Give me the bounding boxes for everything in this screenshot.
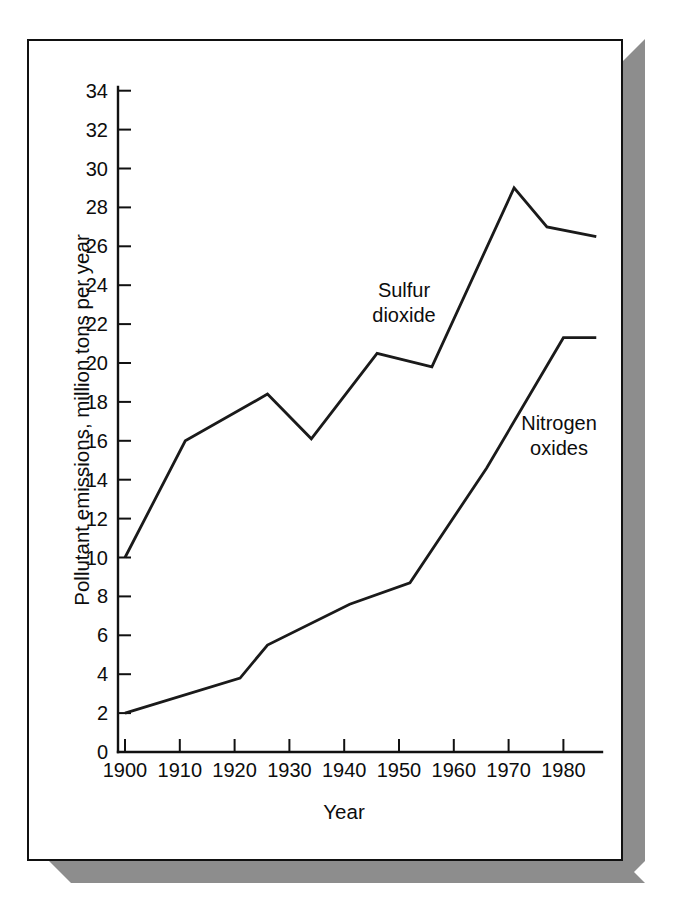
x-tick-label: 1920 [212, 759, 257, 782]
figure-container: 0 2 4 6 8 10 12 14 16 18 20 22 24 26 28 … [0, 0, 688, 906]
y-tick-label: 34 [66, 79, 108, 102]
y-tick-label: 30 [66, 157, 108, 180]
y-tick-label: 2 [66, 702, 108, 725]
y-tick-label: 32 [66, 118, 108, 141]
series-line-nitrogen-oxides [125, 338, 596, 713]
x-tick-label: 1930 [267, 759, 312, 782]
y-tick-label: 0 [66, 741, 108, 764]
series-label-sulfur-dioxide: Sulfur dioxide [334, 278, 474, 328]
y-tick-label: 4 [66, 663, 108, 686]
x-tick-label: 1950 [377, 759, 422, 782]
x-axis-ticks [125, 739, 563, 752]
x-tick-label: 1970 [486, 759, 531, 782]
x-axis-title: Year [0, 800, 688, 824]
y-axis-title: Pollutant emissions, million tons per ye… [70, 210, 94, 630]
x-tick-label: 1940 [322, 759, 367, 782]
x-tick-label: 1910 [158, 759, 203, 782]
series-label-nitrogen-oxides: Nitrogen oxides [484, 411, 634, 461]
x-tick-label: 1980 [541, 759, 586, 782]
x-tick-label: 1960 [432, 759, 477, 782]
series-line-sulfur-dioxide [125, 188, 596, 558]
y-axis-ticks [118, 91, 131, 752]
x-tick-label: 1900 [103, 759, 148, 782]
